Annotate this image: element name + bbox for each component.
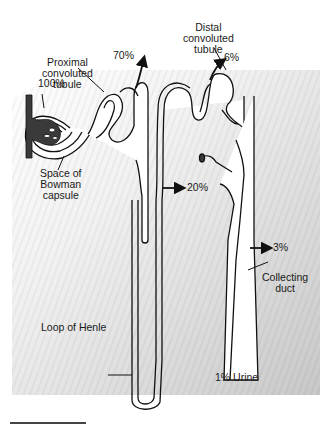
label-line: capsule — [40, 190, 81, 201]
pct-urine: 1% Urine — [215, 372, 258, 383]
label-line: duct — [262, 283, 308, 294]
pct-filtered: 100% — [38, 78, 65, 89]
pct-collecting: 3% — [273, 242, 288, 253]
label-bowman-space: Space of Bowman capsule — [40, 168, 81, 201]
pct-loop: 20% — [187, 182, 208, 193]
nephron-diagram: Proximal convoluted tubule Distal convol… — [0, 0, 329, 424]
label-collecting-duct: Collecting duct — [262, 272, 308, 294]
label-loop-of-henle: Loop of Henle — [41, 322, 106, 333]
pct-proximal: 70% — [113, 50, 134, 61]
pct-distal: 6% — [224, 52, 239, 63]
